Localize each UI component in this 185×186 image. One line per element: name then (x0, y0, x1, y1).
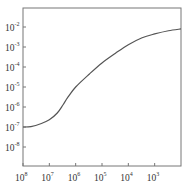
y-tick-exponent: -3 (15, 41, 20, 47)
x-tick-exponent: 3 (156, 171, 159, 177)
y-tick-exponent: -2 (15, 21, 20, 27)
x-tick-exponent: 5 (104, 171, 107, 177)
chart: 108107106105104103 10-210-310-410-510-61… (0, 0, 185, 186)
x-tick-label: 10 (147, 173, 157, 183)
y-tick-exponent: -6 (15, 101, 20, 107)
y-tick-label: 10 (5, 23, 15, 33)
y-tick-exponent: -8 (15, 141, 20, 147)
x-tick-exponent: 7 (51, 171, 54, 177)
x-tick-label: 10 (68, 173, 78, 183)
x-tick-label: 10 (94, 173, 104, 183)
y-tick-label: 10 (5, 123, 15, 133)
x-tick-label: 10 (15, 173, 25, 183)
y-tick-label: 10 (5, 83, 15, 93)
y-tick-exponent: -4 (15, 61, 20, 67)
x-tick-label: 10 (120, 173, 130, 183)
y-tick-label: 10 (5, 103, 15, 113)
x-tick-exponent: 8 (25, 171, 28, 177)
y-tick-label: 10 (5, 143, 15, 153)
x-tick-exponent: 4 (130, 171, 133, 177)
y-tick-exponent: -5 (15, 81, 20, 87)
x-tick-label: 10 (41, 173, 51, 183)
data-line (23, 29, 181, 127)
plot-frame (23, 8, 181, 166)
x-tick-exponent: 6 (77, 171, 80, 177)
y-tick-label: 10 (5, 43, 15, 53)
y-tick-exponent: -7 (15, 121, 20, 127)
y-tick-label: 10 (5, 63, 15, 73)
